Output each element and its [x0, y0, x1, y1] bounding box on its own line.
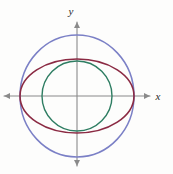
figure-background: [0, 0, 173, 174]
y-axis-label: y: [68, 5, 74, 17]
conics-figure: x y: [0, 0, 173, 174]
plot-canvas: x y: [0, 0, 173, 174]
x-axis-label: x: [155, 90, 161, 102]
